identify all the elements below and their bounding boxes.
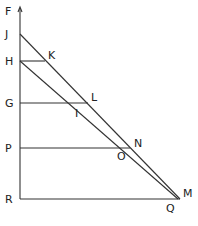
point-label-n: N	[134, 137, 142, 150]
point-label-p: P	[5, 142, 12, 155]
point-label-q: Q	[166, 202, 175, 215]
line-HQ	[20, 61, 178, 199]
point-label-g: G	[5, 97, 14, 110]
line-JM	[20, 34, 180, 199]
point-label-o: O	[117, 150, 126, 163]
point-label-m: M	[183, 187, 193, 200]
point-label-i: I	[75, 107, 78, 120]
point-label-f: F	[5, 5, 11, 18]
point-label-j: J	[4, 28, 8, 41]
point-label-h: H	[5, 55, 13, 68]
point-label-l: L	[91, 91, 98, 104]
point-label-r: R	[5, 193, 13, 206]
point-label-k: K	[48, 49, 56, 62]
geometry-diagram: FJHKGLIPNORMQ	[0, 0, 198, 226]
